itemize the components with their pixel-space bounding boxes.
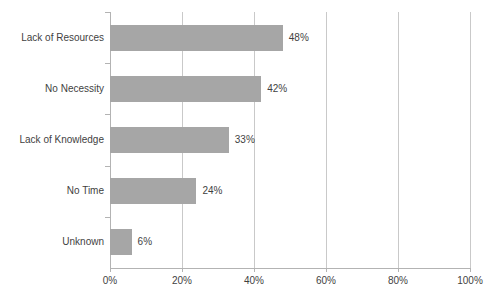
bar-value-label: 6% xyxy=(138,229,152,255)
bar-value-label: 33% xyxy=(235,127,255,153)
x-axis-tick-label: 80% xyxy=(388,275,408,286)
x-axis-tick-label: 60% xyxy=(316,275,336,286)
y-axis-tick xyxy=(105,63,110,64)
bar xyxy=(110,229,132,255)
category-label: No Necessity xyxy=(0,76,104,102)
bar xyxy=(110,76,261,102)
x-axis-tick-0 xyxy=(110,268,111,272)
category-axis-labels: Lack of ResourcesNo NecessityLack of Kno… xyxy=(0,12,104,268)
category-label: Unknown xyxy=(0,229,104,255)
gridline-x-80 xyxy=(398,12,399,268)
x-axis-tick-100 xyxy=(470,268,471,272)
bar xyxy=(110,25,283,51)
y-axis-tick-top xyxy=(105,12,110,13)
category-label: Lack of Resources xyxy=(0,25,104,51)
x-axis-tick-20 xyxy=(182,268,183,272)
bar-chart: Lack of ResourcesNo NecessityLack of Kno… xyxy=(0,0,500,300)
y-axis-tick xyxy=(105,166,110,167)
x-axis-tick-label: 0% xyxy=(103,275,117,286)
x-axis-tick-label: 20% xyxy=(172,275,192,286)
bar xyxy=(110,127,229,153)
x-axis-tick-80 xyxy=(398,268,399,272)
x-axis-tick-label: 40% xyxy=(244,275,264,286)
x-axis-line xyxy=(110,268,471,269)
bar-value-label: 42% xyxy=(267,76,287,102)
bar-value-label: 48% xyxy=(289,25,309,51)
gridline-x-100 xyxy=(470,12,471,268)
x-axis-tick-label: 100% xyxy=(457,275,483,286)
x-axis-tick-40 xyxy=(254,268,255,272)
bar-value-label: 24% xyxy=(202,178,222,204)
y-axis-tick xyxy=(105,217,110,218)
bar xyxy=(110,178,196,204)
x-axis-tick-60 xyxy=(326,268,327,272)
y-axis-tick xyxy=(105,114,110,115)
plot-area: 48%42%33%24%6% xyxy=(110,12,470,268)
category-label: Lack of Knowledge xyxy=(0,127,104,153)
gridline-x-60 xyxy=(326,12,327,268)
category-label: No Time xyxy=(0,178,104,204)
